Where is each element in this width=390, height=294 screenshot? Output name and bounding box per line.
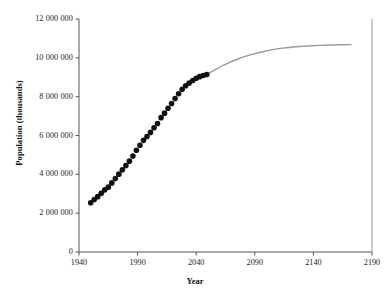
y-tick-label: 12 000 000 xyxy=(35,14,73,23)
data-point-marker xyxy=(176,91,182,97)
y-tick-label: 4 000 000 xyxy=(39,169,73,178)
projection-curve xyxy=(207,45,351,75)
data-point-marker xyxy=(172,96,178,102)
data-point-marker xyxy=(162,110,168,116)
x-tick-label: 2090 xyxy=(235,258,275,267)
population-projection-chart: 02 000 0004 000 0006 000 0008 000 00010 … xyxy=(0,0,390,294)
observed-markers-series xyxy=(88,72,210,206)
data-point-marker xyxy=(155,121,161,127)
x-tick-label: 2190 xyxy=(352,258,390,267)
data-point-marker xyxy=(113,176,119,182)
data-point-marker xyxy=(158,115,164,121)
x-tick-label: 2140 xyxy=(293,258,333,267)
x-tick-label: 2040 xyxy=(176,258,216,267)
y-tick-label: 6 000 000 xyxy=(39,131,73,140)
projection-line-series xyxy=(207,45,351,75)
data-point-marker xyxy=(123,163,129,169)
data-point-marker xyxy=(169,101,175,107)
data-point-marker xyxy=(130,153,136,159)
y-axis-title: Population (thousands) xyxy=(14,43,24,203)
data-point-marker xyxy=(165,106,171,112)
y-tick-label: 2 000 000 xyxy=(39,208,73,217)
y-tick-label: 0 xyxy=(69,247,73,256)
data-point-marker xyxy=(204,72,210,78)
x-axis-title: Year xyxy=(0,276,390,286)
data-point-marker xyxy=(137,142,143,148)
y-tick-label: 10 000 000 xyxy=(35,53,73,62)
data-point-marker xyxy=(134,147,140,153)
y-axis-ticks xyxy=(76,19,80,252)
x-tick-label: 1940 xyxy=(59,258,99,267)
plot-canvas xyxy=(0,0,390,294)
data-point-marker xyxy=(127,158,133,164)
data-point-marker xyxy=(148,130,154,136)
x-tick-label: 1990 xyxy=(118,258,158,267)
x-axis-ticks xyxy=(79,252,372,256)
y-tick-label: 8 000 000 xyxy=(39,92,73,101)
